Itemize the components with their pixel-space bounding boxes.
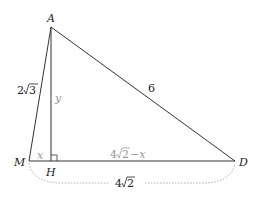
svg-text:4: 4 [115,177,122,190]
point-label-A: A [46,12,55,25]
triangle-diagram: A M H D 2 3 6 y x 4 2 −x 4 2 [0,0,260,200]
side-label-AD: 6 [148,82,155,95]
point-label-M: M [13,156,26,169]
point-label-H: H [45,166,56,179]
svg-text:2: 2 [127,177,134,190]
svg-text:−x: −x [130,148,146,161]
svg-text:4: 4 [110,148,117,161]
altitude-label-y: y [54,92,62,105]
side-label-AM: 2 3 [17,84,38,97]
segment-label-HD: 4 2 −x [110,148,146,161]
side-AD [51,27,235,161]
segment-label-MH: x [37,149,44,162]
svg-text:2: 2 [122,148,129,161]
svg-text:3: 3 [29,84,36,97]
point-label-D: D [238,156,248,169]
right-angle-marker [51,155,57,161]
brace-label-MD: 4 2 [115,177,135,190]
svg-text:2: 2 [17,84,24,97]
